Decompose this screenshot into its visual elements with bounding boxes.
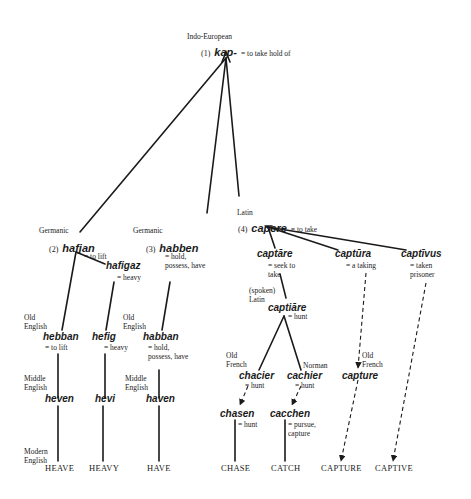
habben-number: (3) — [146, 245, 155, 254]
capere-number: (4) — [238, 225, 247, 234]
germanic-label-3: Germanic — [133, 227, 163, 236]
captura-gloss: = a taking — [346, 262, 376, 271]
line-root-to-habben — [207, 58, 226, 213]
habban-word: habban — [143, 331, 179, 343]
middle-english-label-2: Middle English — [125, 375, 155, 392]
old-french-label-2: Old French — [362, 352, 392, 369]
haven-word: haven — [146, 393, 175, 405]
root-word: kap- — [214, 46, 237, 58]
germanic-label-1: Germanic — [39, 227, 69, 236]
old-french-label: Old French — [226, 352, 256, 369]
hevi-word: hevi — [95, 393, 115, 405]
old-english-label-1: Old English — [24, 314, 54, 331]
hefig-gloss: = heavy — [104, 344, 128, 353]
modern-heavy: HEAVY — [89, 464, 119, 474]
line-captiare-to-chacier — [259, 316, 284, 370]
line-habben-to-habban — [162, 282, 170, 330]
hafigaz-word: hafigaz — [106, 260, 140, 272]
chacier-gloss: = hunt — [245, 382, 264, 391]
chasen-word: chasen — [220, 408, 254, 420]
hafjan-gloss: = to lift — [84, 253, 107, 262]
habban-gloss: = hold, possess, have — [148, 344, 190, 361]
root-number: (1) — [201, 49, 210, 58]
captiare-gloss: = hunt — [288, 313, 307, 322]
arrow-capture-to-CAPTURE — [341, 380, 358, 461]
chacier-word: chacier — [239, 370, 274, 382]
captura-word: captūra — [335, 248, 371, 260]
capere-word: capere — [251, 222, 286, 234]
captare-gloss: = seek to take — [268, 262, 304, 279]
capere-entry: (4) capere = to take — [238, 218, 317, 236]
heven-word: heven — [45, 393, 74, 405]
hebban-word: hebban — [43, 331, 79, 343]
line-captiare-to-cachier — [284, 316, 301, 370]
hefig-word: hefig — [92, 331, 116, 343]
line-hafigaz-to-hefig — [106, 282, 114, 330]
modern-capture: CAPTURE — [321, 464, 362, 474]
capture-word: capture — [342, 370, 378, 382]
arrow-captivus-to-CAPTIVE — [393, 283, 426, 461]
captivus-word: captīvus — [401, 248, 442, 260]
modern-chase: CHASE — [221, 464, 250, 474]
captare-word: captāre — [257, 248, 293, 260]
chasen-gloss: = hunt — [238, 421, 257, 430]
old-english-label-2: Old English — [123, 314, 153, 331]
root-family-label: Indo-European — [187, 33, 232, 42]
root-gloss: = to take hold of — [241, 49, 291, 58]
modern-catch: CATCH — [271, 464, 300, 474]
line-hafjan-to-hebban — [62, 252, 76, 330]
line-root-to-capere — [226, 58, 239, 196]
habben-gloss: = hold, possess, have — [165, 253, 207, 270]
hafjan-number: (2) — [49, 245, 58, 254]
hebban-gloss: = to lift — [45, 344, 68, 353]
hafigaz-gloss: = heavy — [117, 274, 141, 283]
capere-gloss: = to take — [291, 225, 317, 234]
captivus-gloss: = taken prisoner — [410, 262, 448, 279]
middle-english-label-1: Middle English — [24, 375, 54, 392]
modern-heave: HEAVE — [45, 464, 74, 474]
cacchen-word: cacchen — [270, 408, 310, 420]
cachier-word: cachier — [287, 370, 322, 382]
line-root-to-hafjan — [80, 58, 226, 232]
cachier-gloss: = hunt — [295, 382, 314, 391]
cacchen-gloss: = pursue, capture — [288, 421, 324, 438]
latin-label: Latin — [237, 209, 253, 218]
modern-captive: CAPTIVE — [375, 464, 413, 474]
root-entry: (1) kap- = to take hold of — [201, 42, 291, 60]
modern-have: HAVE — [147, 464, 171, 474]
